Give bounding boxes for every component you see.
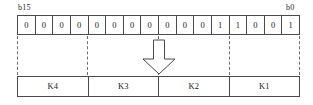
- lsb-label: b0: [286, 3, 294, 12]
- bit-cell: 0: [106, 16, 124, 34]
- nibble-row: K4K3K2K1: [17, 76, 300, 97]
- nibble-cell: K2: [159, 77, 230, 96]
- bit-cell: 0: [53, 16, 71, 34]
- bit-cell: 0: [18, 16, 36, 34]
- nibble-cell: K1: [230, 77, 300, 96]
- bit-cell: 0: [89, 16, 107, 34]
- bit-cell: 1: [282, 16, 299, 34]
- down-arrow-icon: [141, 39, 177, 75]
- bit-cell: 0: [71, 16, 89, 34]
- bit-cell: 1: [212, 16, 230, 34]
- msb-label: b15: [18, 3, 31, 12]
- nibble-guide-line-left: [17, 36, 18, 75]
- nibble-guide-line-right: [299, 36, 300, 75]
- nibble-guide-line-k2-k1: [229, 36, 230, 75]
- bit-register: 0000000000011001: [17, 15, 300, 35]
- bit-cell: 0: [194, 16, 212, 34]
- bit-cell: 0: [159, 16, 177, 34]
- bit-cell: 0: [177, 16, 195, 34]
- register-nibble-diagram: b15 b0 0000000000011001 K4K3K2K1: [0, 0, 313, 105]
- nibble-guide-line-k4-k3: [87, 36, 88, 75]
- bit-cell: 1: [230, 16, 248, 34]
- bit-cell: 0: [141, 16, 159, 34]
- bit-cell: 0: [247, 16, 265, 34]
- bit-cell: 0: [265, 16, 283, 34]
- bit-cell: 0: [36, 16, 54, 34]
- nibble-cell: K4: [18, 77, 89, 96]
- bit-cell: 0: [124, 16, 142, 34]
- nibble-cell: K3: [89, 77, 160, 96]
